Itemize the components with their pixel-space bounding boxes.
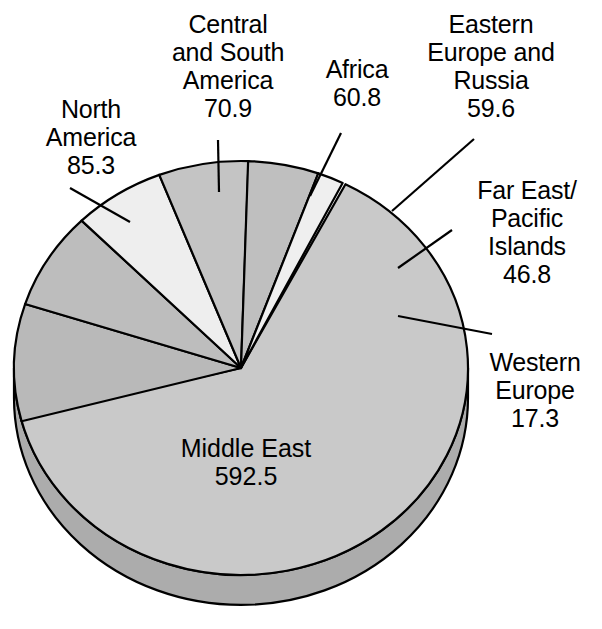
slice-label-middle-east: Middle East 592.5 (118, 434, 374, 490)
pie-slices-group (14, 161, 468, 575)
pie-chart: North America 85.3 Central and South Ame… (0, 0, 602, 629)
slice-label-far-east-pacific-islands: Far East/ Pacific Islands 46.8 (452, 176, 602, 288)
slice-label-western-europe: Western Europe 17.3 (468, 348, 602, 432)
leader-line-central-and-south-america (218, 140, 219, 192)
slice-label-eastern-europe-and-russia: Eastern Europe and Russia 59.6 (398, 10, 584, 122)
